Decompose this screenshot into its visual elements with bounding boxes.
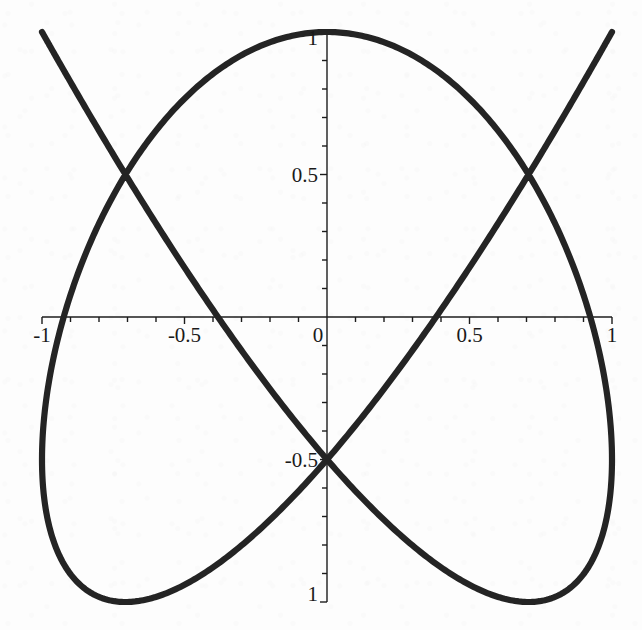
x-tick-label: 1 bbox=[607, 323, 618, 347]
y-axis-tick-labels: 10.5-0.51 bbox=[285, 26, 318, 606]
y-tick-label: 1 bbox=[308, 582, 319, 606]
lissajous-plot-canvas: -1-0.500.51 10.5-0.51 bbox=[0, 0, 642, 630]
y-tick-label: -0.5 bbox=[285, 448, 318, 472]
y-tick-label: 0.5 bbox=[292, 163, 318, 187]
x-tick-label: 0.5 bbox=[456, 323, 482, 347]
x-axis-tick-labels: -1-0.500.51 bbox=[33, 323, 617, 347]
x-tick-label: 0 bbox=[313, 323, 324, 347]
x-tick-label: -1 bbox=[33, 323, 51, 347]
y-tick-label: 1 bbox=[308, 26, 319, 50]
lissajous-figure: -1-0.500.51 10.5-0.51 bbox=[0, 0, 642, 630]
x-tick-label: -0.5 bbox=[168, 323, 201, 347]
